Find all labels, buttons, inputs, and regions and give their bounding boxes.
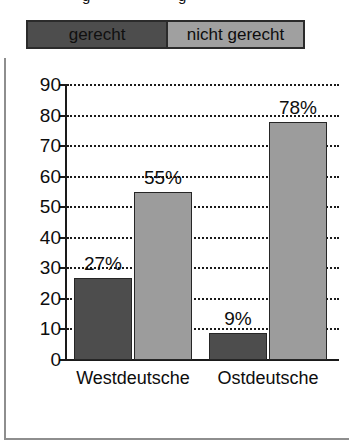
- gridline: [67, 84, 339, 86]
- clipped-caption-fragment-left: g: [82, 0, 91, 4]
- plot-area: 9080706050403020100 27%55%9%78% Westdeut…: [6, 58, 349, 438]
- y-axis-tick-label: 60: [15, 167, 61, 186]
- y-axis-tick-label: 30: [15, 258, 61, 277]
- y-axis-tick-label: 20: [15, 289, 61, 308]
- bar-value-label: 78%: [257, 98, 339, 117]
- category-label-westdeutsche: Westdeutsche: [58, 369, 208, 387]
- bar-value-label: 55%: [122, 168, 204, 187]
- legend-label-nicht-gerecht: nicht gerecht: [187, 25, 284, 45]
- bar-nicht-gerecht-ostdeutsche: [269, 122, 327, 360]
- bar-gerecht-westdeutsche: [74, 278, 132, 361]
- category-label-ostdeutsche: Ostdeutsche: [193, 369, 343, 387]
- bar-nicht-gerecht-westdeutsche: [134, 192, 192, 360]
- chart-panel: 9080706050403020100 27%55%9%78% Westdeut…: [4, 58, 349, 440]
- y-axis-tick-label: 50: [15, 197, 61, 216]
- y-axis-tick-label: 40: [15, 228, 61, 247]
- legend-item-gerecht: gerecht: [28, 22, 166, 47]
- bar-gerecht-ostdeutsche: [209, 333, 267, 361]
- clipped-caption-fragment-right: g: [178, 0, 187, 4]
- chart-legend: gerecht nicht gerecht: [26, 20, 305, 49]
- y-axis-line: [65, 84, 67, 361]
- bar-value-label: 9%: [197, 309, 279, 328]
- clipped-caption-row: g g: [0, 0, 353, 13]
- y-axis-tick-label: 70: [15, 136, 61, 155]
- y-axis-tick-label: 80: [15, 106, 61, 125]
- y-axis-tick-label: 90: [15, 75, 61, 94]
- y-axis-tick-label: 10: [15, 319, 61, 338]
- legend-label-gerecht: gerecht: [69, 25, 126, 45]
- y-axis-tick-label: 0: [15, 350, 61, 369]
- legend-item-nicht-gerecht: nicht gerecht: [166, 22, 303, 47]
- bar-value-label: 27%: [62, 254, 144, 273]
